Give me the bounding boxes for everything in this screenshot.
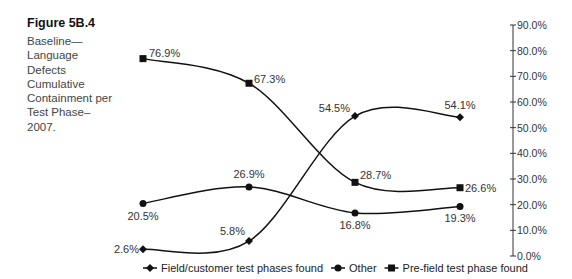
y-tick-label: 40.0% [517,147,547,159]
legend: Field/customer test phases foundOtherPre… [143,262,528,274]
data-label: 26.6% [465,182,496,194]
data-label: 2.6% [114,243,139,255]
series-pre-field-test-phase-found: 76.9%67.3%28.7%26.6% [140,47,497,194]
data-label: 76.9% [149,47,180,59]
circle-marker-icon [352,209,359,216]
circle-marker-icon [140,200,147,207]
square-marker-icon [140,55,147,62]
legend-item: Other [331,262,377,274]
y-tick-label: 20.0% [517,199,547,211]
circle-marker-icon [335,265,342,272]
square-marker-icon [246,80,253,87]
line-chart: 0.0%10.0%20.0%30.0%40.0%50.0%60.0%70.0%8… [0,0,572,279]
data-label: 54.1% [444,99,475,111]
data-label: 28.7% [360,169,391,181]
legend-label: Other [349,262,377,274]
data-label: 16.8% [339,219,370,231]
data-label: 67.3% [254,73,285,85]
legend-item: Pre-field test phase found [385,262,528,274]
y-tick-label: 80.0% [517,45,547,57]
legend-item: Field/customer test phases found [143,262,323,274]
data-label: 26.9% [233,168,264,180]
y-tick-label: 60.0% [517,96,547,108]
y-tick-label: 0.0% [517,250,541,262]
y-tick-label: 10.0% [517,224,547,236]
diamond-marker-icon [456,113,464,121]
y-tick-label: 30.0% [517,173,547,185]
data-label: 19.3% [444,212,475,224]
y-tick-label: 50.0% [517,122,547,134]
y-tick-label: 90.0% [517,19,547,31]
data-label: 5.8% [220,225,245,237]
data-label: 54.5% [319,102,350,114]
series-field-customer-test-phases-found: 2.6%5.8%54.5%54.1% [114,99,476,255]
y-tick-label: 70.0% [517,70,547,82]
circle-marker-icon [246,183,253,190]
diamond-marker-icon [146,264,154,272]
diamond-marker-icon [139,245,147,253]
square-marker-icon [388,265,395,272]
y-axis: 0.0%10.0%20.0%30.0%40.0%50.0%60.0%70.0%8… [510,19,547,262]
square-marker-icon [457,184,464,191]
legend-label: Field/customer test phases found [161,262,323,274]
diamond-marker-icon [351,112,359,120]
circle-marker-icon [457,203,464,210]
square-marker-icon [352,179,359,186]
data-label: 20.5% [127,210,158,222]
legend-label: Pre-field test phase found [403,262,528,274]
